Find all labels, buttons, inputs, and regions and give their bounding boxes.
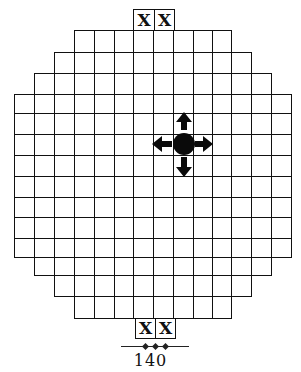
page-number: 140 <box>0 351 301 370</box>
down-arrow-icon <box>176 157 192 177</box>
left-arrow-icon <box>152 136 172 152</box>
right-arrow-icon <box>195 136 213 152</box>
game-piece-disc <box>173 133 195 155</box>
up-arrow-icon <box>176 112 192 130</box>
piece-with-arrows <box>0 0 301 372</box>
